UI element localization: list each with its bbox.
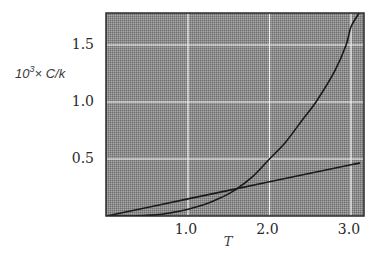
- x-tick-label: 2.0: [256, 221, 278, 237]
- y-axis-label: 103× C/k: [15, 64, 67, 81]
- chart: 1.02.03.0 0.51.01.5 103× C/k T: [0, 0, 385, 256]
- y-tick-label: 1.0: [72, 93, 94, 109]
- x-tick-label: 3.0: [338, 221, 360, 237]
- y-tick-label: 1.5: [72, 36, 94, 52]
- x-axis-label: T: [224, 234, 234, 249]
- plot-area: [106, 13, 364, 216]
- x-tick-label: 1.0: [175, 221, 197, 237]
- y-axis-ticks: 0.51.01.5: [72, 36, 94, 166]
- y-tick-label: 0.5: [72, 150, 94, 166]
- x-axis-ticks: 1.02.03.0: [175, 221, 360, 237]
